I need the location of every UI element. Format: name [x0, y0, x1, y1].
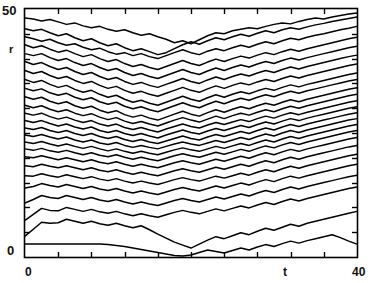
line-chart-plot [0, 0, 380, 283]
x-axis-title: t [283, 266, 287, 278]
chart-figure: 50 0 r 0 40 t [0, 0, 380, 283]
y-axis-min-label: 0 [7, 244, 14, 257]
x-axis-max-label: 40 [352, 266, 365, 278]
x-axis-min-label: 0 [25, 266, 32, 278]
y-axis-title: r [9, 44, 13, 55]
y-axis-max-label: 50 [2, 4, 16, 17]
